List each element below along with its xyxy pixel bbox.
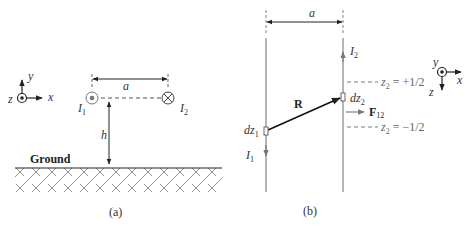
axis-icon-b: y x z (428, 55, 463, 99)
element-dz2-label: dz2 (350, 91, 365, 107)
axis-icon-a: y x z (7, 69, 54, 106)
z-upper-limit-label: z2 = +1/2 (380, 75, 425, 91)
figure-b: a I2 z2 = +1/2 dz2 R F12 z2 = −1/2 dz1 I… (244, 6, 463, 218)
ground-hatch (15, 168, 222, 192)
caption-a: (a) (109, 205, 122, 219)
vector-r-label: R (294, 97, 303, 111)
element-dz1 (264, 127, 268, 135)
current-i2-label: I2 (349, 44, 358, 60)
z-axis-label-b: z (428, 85, 434, 99)
figure-a: y x z a I1 I2 h Ground (a) (7, 69, 222, 219)
element-dz1-label: dz1 (244, 123, 259, 139)
element-dz2 (341, 93, 345, 101)
x-axis-label: x (47, 90, 54, 104)
wire-i2-current-in-icon (162, 92, 174, 104)
y-axis-label: y (27, 69, 34, 83)
z-lower-limit-label: z2 = −1/2 (380, 120, 425, 136)
wire-i2-label: I2 (179, 101, 188, 117)
diagram-canvas: y x z a I1 I2 h Ground (a) (0, 0, 472, 232)
ground-label: Ground (30, 152, 71, 166)
wire-i1-label: I1 (77, 101, 86, 117)
y-axis-label-b: y (432, 55, 439, 69)
height-label: h (101, 128, 107, 142)
force-f12-label: F12 (369, 105, 384, 120)
current-i1-label: I1 (245, 148, 254, 164)
x-axis-label-b: x (456, 73, 463, 87)
separation-label: a (123, 79, 129, 93)
z-axis-label: z (7, 92, 13, 106)
caption-b: (b) (303, 204, 317, 218)
separation-label-b: a (309, 6, 315, 20)
vector-r-arrow (268, 98, 340, 130)
